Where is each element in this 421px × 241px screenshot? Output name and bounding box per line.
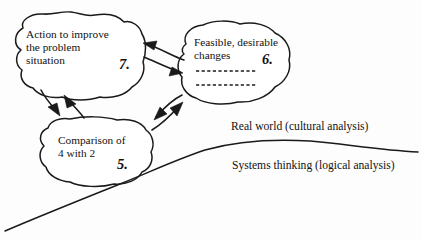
blob-feasible-desirable-changes[interactable] bbox=[178, 21, 290, 104]
blob-action-line-2: the problem bbox=[26, 41, 109, 54]
blob-comparison-line-1: Comparison of bbox=[58, 134, 125, 147]
blob-action-line-3: situation bbox=[26, 54, 109, 67]
blob-feasible-number: 6. bbox=[262, 53, 273, 66]
blob-feasible-line-1: Feasible, desirable bbox=[194, 36, 278, 49]
connector-action-to-comparison-arrowhead bbox=[48, 103, 60, 116]
blob-comparison-label: Comparison of 4 with 2 bbox=[58, 134, 125, 160]
zone-label-real-world: Real world (cultural analysis) bbox=[231, 120, 368, 133]
blob-action-line-1: Action to improve bbox=[26, 28, 109, 41]
blob-action-number: 7. bbox=[119, 58, 130, 71]
blob-action-label: Action to improve the problem situation bbox=[26, 28, 109, 67]
connector-feasible-to-comparison-arrowhead bbox=[154, 107, 167, 120]
zone-label-systems-thinking: Systems thinking (logical analysis) bbox=[232, 159, 395, 172]
blob-comparison-line-2: 4 with 2 bbox=[58, 147, 125, 160]
blob-comparison-number: 5. bbox=[117, 158, 128, 171]
diagram-canvas: Action to improve the problem situation … bbox=[0, 0, 421, 241]
